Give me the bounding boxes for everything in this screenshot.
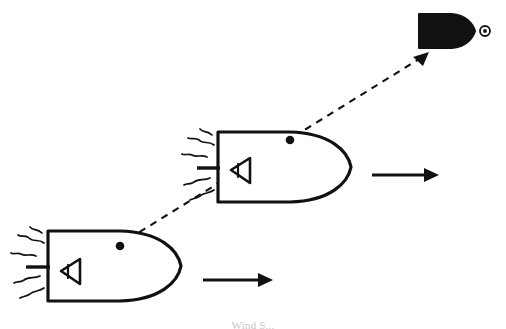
- figure-caption: Wind S...: [0, 320, 506, 329]
- lower-ship-marker-dot: [116, 242, 125, 251]
- spacecraft-diagram-svg: [0, 0, 506, 329]
- target-ship-hull: [419, 14, 475, 48]
- target-ring-center-dot: [483, 29, 487, 33]
- diagram-canvas: Wind S...: [0, 0, 506, 329]
- upper-ship-marker-dot: [286, 136, 295, 145]
